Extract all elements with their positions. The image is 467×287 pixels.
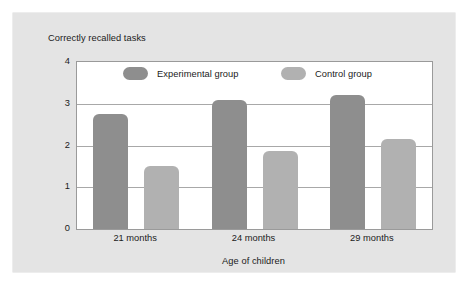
y-axis-tick-label: 1 <box>46 181 70 191</box>
legend-label: Control group <box>315 69 372 79</box>
legend-item[interactable]: Control group <box>281 67 372 80</box>
chart-legend: Experimental groupControl group <box>76 67 431 87</box>
legend-label: Experimental group <box>157 69 239 79</box>
bar <box>212 100 247 229</box>
x-axis-title: Age of children <box>76 256 431 266</box>
legend-swatch <box>123 67 148 80</box>
bar <box>144 166 179 229</box>
gridline <box>77 146 432 147</box>
x-axis-tick-label: 29 months <box>350 233 393 243</box>
chart-card: Correctly recalled tasks 01234 21 months… <box>13 13 455 272</box>
y-axis: 01234 <box>44 61 70 228</box>
bar <box>330 95 365 229</box>
legend-item[interactable]: Experimental group <box>123 67 239 80</box>
y-axis-tick-label: 3 <box>46 98 70 108</box>
y-axis-tick-label: 2 <box>46 140 70 150</box>
y-axis-tick-label: 4 <box>46 56 70 66</box>
gridline <box>77 187 432 188</box>
x-axis-tick-label: 21 months <box>113 233 156 243</box>
chart-title: Correctly recalled tasks <box>48 33 146 43</box>
bar <box>93 114 128 229</box>
bar <box>263 151 298 229</box>
bar <box>381 139 416 229</box>
legend-swatch <box>281 67 306 80</box>
y-axis-tick-label: 0 <box>46 223 70 233</box>
gridline <box>77 104 432 105</box>
x-axis-tick-label: 24 months <box>232 233 275 243</box>
x-axis-tick-labels: 21 months24 months29 months <box>76 233 431 249</box>
chart-figure: Correctly recalled tasks 01234 21 months… <box>0 0 467 287</box>
